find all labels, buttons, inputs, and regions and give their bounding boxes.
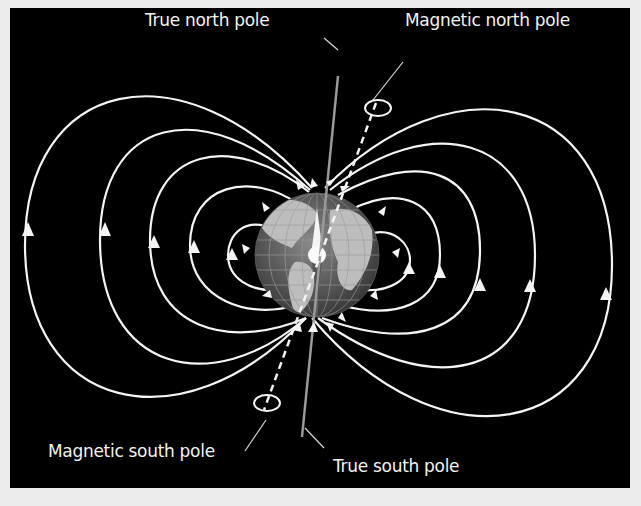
arrow-up-icon xyxy=(403,262,415,274)
label-true-north-pole: True north pole xyxy=(145,10,269,30)
leader-true-north xyxy=(324,38,338,50)
arrow-icon xyxy=(310,178,318,188)
arrow-up-icon xyxy=(434,265,446,278)
arrow-icon xyxy=(262,202,270,212)
arrow-icon xyxy=(378,206,386,216)
magnetic-field-diagram xyxy=(0,0,641,506)
leader-magnetic-south xyxy=(245,420,266,451)
label-magnetic-north-pole: Magnetic north pole xyxy=(405,10,570,30)
magnetic-north-ring xyxy=(365,100,391,116)
leader-magnetic-north xyxy=(373,62,403,100)
leader-true-south xyxy=(305,428,324,448)
arrow-icon xyxy=(370,290,378,300)
label-true-south-pole: True south pole xyxy=(333,456,459,476)
arrow-icon xyxy=(242,244,250,254)
arrow-icon xyxy=(338,312,346,322)
label-magnetic-south-pole: Magnetic south pole xyxy=(48,441,215,461)
arrow-icon xyxy=(392,248,400,258)
arrow-up-icon xyxy=(22,222,34,236)
magnetic-south-ring xyxy=(254,395,280,411)
